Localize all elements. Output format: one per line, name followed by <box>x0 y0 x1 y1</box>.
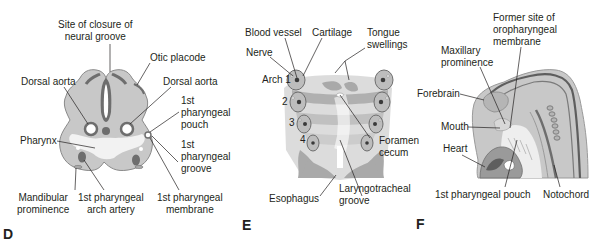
label-forebrain: Forebrain <box>417 88 460 100</box>
label-nerve: Nerve <box>246 47 273 59</box>
label-arch-3: 3 <box>289 117 295 129</box>
label-dorsal-aorta-right: Dorsal aorta <box>163 76 217 88</box>
label-first-pharyngeal-pouch-f: 1st pharyngeal pouch <box>435 189 531 201</box>
panel-letter-d: D <box>3 226 13 242</box>
label-tongue-swellings: Tongue swellings <box>367 27 408 51</box>
label-notochord: Notochord <box>543 189 589 201</box>
label-arch-4: 4 <box>300 134 306 146</box>
dorsal-aorta-right <box>121 123 133 135</box>
label-site-of-closure: Site of closure of neural groove <box>58 19 132 43</box>
label-mouth: Mouth <box>441 121 469 133</box>
label-dorsal-aorta-left: Dorsal aorta <box>21 76 75 88</box>
panel-d-cross-section <box>57 44 179 190</box>
panel-letter-f: F <box>416 216 425 232</box>
panel-letter-e: E <box>242 217 251 233</box>
notochord-d <box>102 127 110 135</box>
label-arch-1: Arch 1 <box>262 74 291 86</box>
label-foramen-cecum: Foramen cecum <box>379 135 419 159</box>
label-former-site-oropharyngeal: Former site of oropharyngeal membrane <box>493 12 557 48</box>
label-arch-2: 2 <box>282 96 288 108</box>
label-blood-vessel: Blood vessel <box>245 27 302 39</box>
label-first-pharyngeal-groove: 1st pharyngeal groove <box>181 139 230 175</box>
label-otic-placode: Otic placode <box>150 52 206 64</box>
dorsal-aorta-left <box>85 123 97 135</box>
label-mandibular-prominence: Mandibular prominence <box>17 192 69 216</box>
label-pharyngeal-membrane: 1st pharyngeal membrane <box>157 192 223 216</box>
label-arch-artery: 1st pharyngeal arch artery <box>78 192 144 216</box>
label-laryngotracheal-groove: Laryngotracheal groove <box>339 183 411 207</box>
label-heart: Heart <box>443 143 467 155</box>
label-esophagus: Esophagus <box>269 193 319 205</box>
label-cartilage: Cartilage <box>312 27 352 39</box>
label-maxillary-prominence: Maxillary prominence <box>441 45 493 69</box>
label-pharynx: Pharynx <box>20 135 57 147</box>
label-first-pharyngeal-pouch: 1st pharyngeal pouch <box>181 95 230 131</box>
